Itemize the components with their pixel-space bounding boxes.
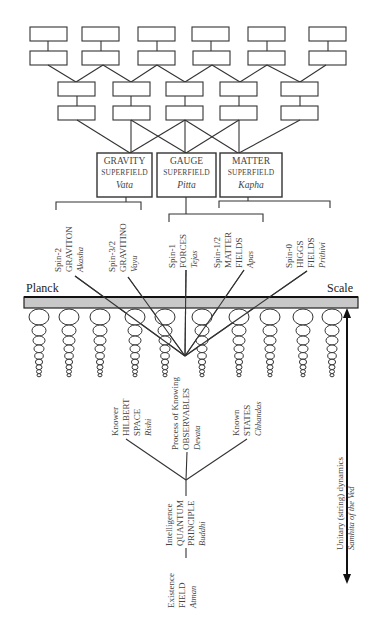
forces-label: Spin-1 FORCES Tejas <box>167 234 200 268</box>
known-label: Known STATES Chhandas <box>231 402 264 436</box>
gravity-superfield-label: GRAVITY SUPERFIELD Vata <box>97 155 152 191</box>
observables-label: Process of Knowing OBSERVABLES Devata <box>170 377 203 450</box>
top-box-row-2 <box>30 51 346 65</box>
top-box-row-1 <box>30 27 346 41</box>
unitary-dynamics-label: Unitary (string) dynamics Samhita of the… <box>335 457 357 550</box>
matter-superfield-label: MATTER SUPERFIELD Kapha <box>220 155 282 191</box>
mid-box-row-2 <box>58 106 318 120</box>
unified-field-diagram: GRAVITY SUPERFIELD Vata GAUGE SUPERFIELD… <box>0 0 381 625</box>
higgs-fields-label: Spin-0 HIGGS FIELDS Prithivi <box>284 237 328 268</box>
planck-scale-bar <box>24 297 358 308</box>
planck-label: Planck <box>26 281 59 296</box>
matter-fields-label: Spin-1/2 MATTER FIELDS Apas <box>212 232 256 268</box>
existence-field-label: Existence FIELD Atman <box>166 573 199 608</box>
gravitino-label: Spin-3/2 GRAVITINO Vayu <box>107 223 140 272</box>
graviton-label: Spin-2 GRAVITON Akasha <box>53 226 86 272</box>
knower-label: Knower HILBERT SPACE Rishi <box>110 399 154 436</box>
gauge-superfield-label: GAUGE SUPERFIELD Pitta <box>157 155 216 191</box>
scale-label: Scale <box>327 281 353 296</box>
mid-box-row-1 <box>58 82 318 96</box>
quantum-principle-label: Intelligence QUANTUM PRINCIPLE Buddhi <box>164 500 208 546</box>
